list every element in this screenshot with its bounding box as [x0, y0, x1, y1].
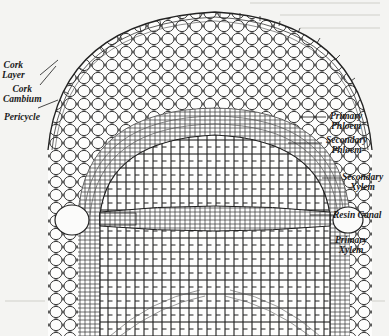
- cross-section-drawing: [0, 0, 389, 336]
- label-primary-phloem: Primary Phloem: [330, 111, 362, 131]
- label-secondary-xylem: Secondary Xylem: [342, 172, 383, 192]
- label-cork-layer: Cork Layer: [2, 60, 25, 80]
- label-cork-cambium: Cork Cambium: [3, 84, 42, 104]
- root-cross-section-figure: Cork Layer Cork Cambium Pericycle Primar…: [0, 0, 389, 336]
- label-resin-canal: Resin Canal: [333, 210, 381, 220]
- label-secondary-phloem: Secondary Phloem: [326, 135, 367, 155]
- label-pericycle: Pericycle: [4, 112, 40, 122]
- resin-canal-left: [55, 205, 89, 235]
- label-primary-xylem: Primary Xylem: [335, 235, 367, 255]
